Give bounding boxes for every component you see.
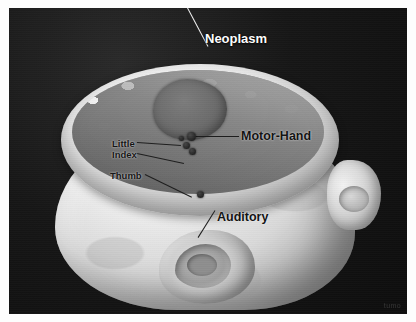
label-motor-hand: Motor-Hand xyxy=(241,130,311,143)
marker-auditory xyxy=(197,191,204,198)
label-neoplasm: Neoplasm xyxy=(205,32,267,45)
label-index: Index xyxy=(112,150,137,160)
marker-index xyxy=(183,142,190,149)
marker-thumb xyxy=(189,148,196,155)
face-detail xyxy=(339,186,369,212)
watermark: tumo xyxy=(384,302,401,309)
neoplasm-lesion xyxy=(153,79,227,140)
marker-little xyxy=(179,136,184,141)
label-thumb: Thumb xyxy=(110,171,142,181)
label-little: Little xyxy=(112,139,135,149)
leader-line-motor-hand xyxy=(195,136,239,137)
image-plate: NeoplasmMotor-HandLittleIndexThumbAudito… xyxy=(9,8,407,314)
ear xyxy=(159,230,255,304)
medical-figure: NeoplasmMotor-HandLittleIndexThumbAudito… xyxy=(0,0,416,322)
marker-motor-hand xyxy=(187,132,196,141)
ear-canal xyxy=(187,254,217,276)
label-auditory: Auditory xyxy=(217,211,268,224)
leader-line-neoplasm xyxy=(178,8,208,47)
